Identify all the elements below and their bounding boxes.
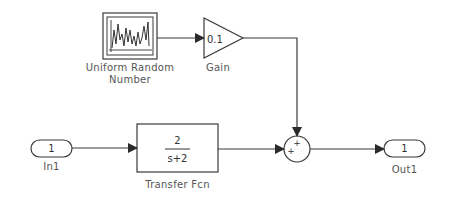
in1-label: In1 <box>31 161 72 172</box>
sum-sign-left: + <box>287 146 295 156</box>
diagram-canvas: 0.1 1 2 s+2 + + 1 <box>0 0 451 205</box>
out1-port-block[interactable]: 1 <box>384 140 425 157</box>
sum-block[interactable]: + + <box>284 136 310 162</box>
uniform-random-number-block[interactable] <box>103 13 157 59</box>
in1-port-block[interactable]: 1 <box>31 140 72 157</box>
label-line-1: Uniform Random <box>80 62 180 74</box>
uniform-random-number-label: Uniform Random Number <box>80 62 180 86</box>
tf-denominator: s+2 <box>168 153 188 164</box>
out1-port-number: 1 <box>401 143 407 154</box>
signal-line-gain-to-sum[interactable] <box>243 38 297 136</box>
gain-block[interactable]: 0.1 <box>204 18 243 58</box>
in1-port-number: 1 <box>48 143 54 154</box>
gain-label: Gain <box>198 62 238 73</box>
out1-label: Out1 <box>384 164 425 175</box>
label-line-2: Number <box>80 74 180 86</box>
transfer-fcn-label: Transfer Fcn <box>127 179 228 190</box>
transfer-fcn-block[interactable]: 2 s+2 <box>137 124 218 172</box>
gain-value: 0.1 <box>207 34 223 45</box>
tf-numerator: 2 <box>174 135 180 146</box>
